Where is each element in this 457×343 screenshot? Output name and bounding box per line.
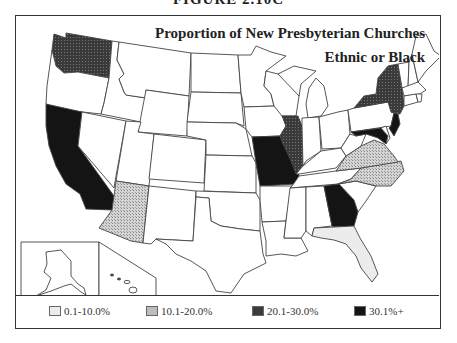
state-wyoming (138, 90, 189, 136)
state-hawaii-maui (124, 280, 130, 283)
legend-label: 30.1%+ (369, 305, 404, 317)
legend-label: 0.1-10.0% (64, 305, 110, 317)
state-florida (312, 226, 378, 282)
state-hawaii-big (129, 287, 137, 293)
legend-label: 10.1-20.0% (161, 305, 212, 317)
us-map: Proportion of New Presbyterian Churches … (16, 16, 439, 296)
state-hawaii-oahu (117, 278, 120, 280)
legend-swatch-icon (49, 306, 61, 316)
state-new-mexico (143, 186, 196, 244)
legend-label: 20.1-30.0% (267, 305, 318, 317)
legend-item-cat2: 10.1-20.0% (146, 305, 212, 317)
state-connecticut (404, 94, 418, 106)
state-kansas (204, 155, 256, 193)
legend-swatch-icon (252, 306, 264, 316)
legend-item-cat3: 20.1-30.0% (252, 305, 318, 317)
legend-item-cat4: 30.1%+ (354, 305, 404, 317)
legend-swatch-icon (354, 306, 366, 316)
legend-swatch-icon (146, 306, 158, 316)
inset-hawaii-box (99, 242, 156, 295)
map-title-line1: Proportion of New Presbyterian Churches (155, 25, 425, 41)
map-title-line2: Ethnic or Black (155, 45, 425, 69)
state-south-dakota (187, 92, 244, 126)
figure-frame: Proportion of New Presbyterian Churches … (15, 15, 441, 329)
figure-label: FIGURE 2.10C (0, 0, 457, 8)
legend-item-cat1: 0.1-10.0% (49, 305, 110, 317)
state-colorado (149, 134, 206, 183)
map-title: Proportion of New Presbyterian Churches … (155, 21, 425, 69)
legend: 0.1-10.0% 10.1-20.0% 20.1-30.0% 30.1%+ (16, 297, 439, 327)
state-hawaii-kauai (110, 274, 113, 276)
